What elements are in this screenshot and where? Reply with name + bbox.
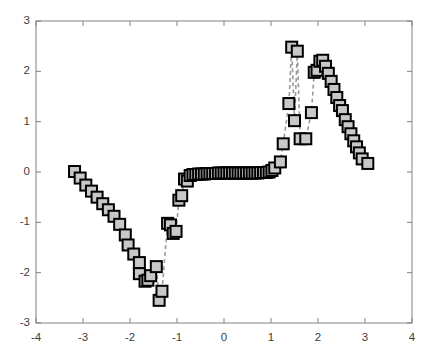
- x-tick-label: -4: [31, 332, 41, 344]
- y-tick-label: 1: [12, 116, 30, 128]
- data-point-marker: [300, 133, 311, 144]
- x-tick-label: -1: [172, 332, 182, 344]
- data-point-marker: [134, 257, 145, 268]
- y-tick-label: -1: [12, 217, 30, 229]
- x-tick-label: 1: [268, 332, 274, 344]
- x-tick-label: 3: [362, 332, 368, 344]
- data-point-marker: [292, 46, 303, 57]
- x-tick-label: -2: [125, 332, 135, 344]
- data-point-marker: [156, 286, 167, 297]
- data-point-marker: [283, 98, 294, 109]
- data-point-marker: [306, 107, 317, 118]
- data-point-marker: [171, 226, 182, 237]
- x-tick-label: -3: [78, 332, 88, 344]
- x-tick-label: 2: [315, 332, 321, 344]
- data-point-marker: [362, 158, 373, 169]
- data-point-marker: [289, 115, 300, 126]
- y-tick-label: -3: [12, 317, 30, 329]
- y-tick-label: 0: [12, 166, 30, 178]
- data-point-marker: [275, 156, 286, 167]
- data-point-marker: [151, 261, 162, 272]
- data-point-marker: [278, 138, 289, 149]
- y-tick-label: -2: [12, 267, 30, 279]
- y-tick-label: 3: [12, 15, 30, 27]
- data-point-marker: [176, 190, 187, 201]
- figure-canvas: -4-3-2-101234-3-2-10123: [0, 0, 427, 360]
- x-tick-label: 4: [409, 332, 415, 344]
- plot-area: [0, 0, 427, 360]
- y-tick-label: 2: [12, 66, 30, 78]
- x-tick-label: 0: [221, 332, 227, 344]
- data-point-marker: [114, 219, 125, 230]
